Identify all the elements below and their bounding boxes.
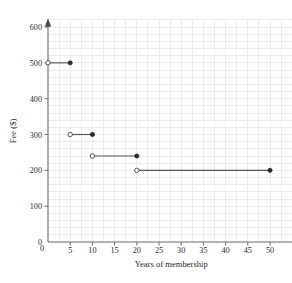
x-tick-label: 30 xyxy=(177,246,185,255)
axes xyxy=(45,18,292,245)
x-tick-label: 50 xyxy=(266,246,274,255)
closed-endpoint-marker xyxy=(68,61,72,65)
open-endpoint-marker xyxy=(90,154,94,158)
closed-endpoint-marker xyxy=(90,132,94,136)
x-tick-label: 20 xyxy=(133,246,141,255)
x-tick-label: 40 xyxy=(222,246,230,255)
open-endpoint-marker xyxy=(68,132,72,136)
x-axis-title: Years of membership xyxy=(135,259,208,269)
x-tick-label: 45 xyxy=(244,246,252,255)
y-tick-label: 500 xyxy=(30,59,42,68)
chart-container: 0100200300400500600 05101520253035404550… xyxy=(0,0,292,283)
x-tick-label: 15 xyxy=(111,246,119,255)
x-tick-label: 25 xyxy=(155,246,163,255)
x-tick-label: 10 xyxy=(88,246,96,255)
y-tick-label: 100 xyxy=(30,202,42,211)
x-axis-ticks: 05101520253035404550 xyxy=(40,242,274,255)
x-tick-label: 0 xyxy=(40,244,44,253)
step-function-chart: 0100200300400500600 05101520253035404550… xyxy=(0,0,292,283)
y-tick-label: 200 xyxy=(30,166,42,175)
grid-lines xyxy=(48,20,292,242)
closed-endpoint-marker xyxy=(135,154,139,158)
y-axis-ticks: 0100200300400500600 xyxy=(30,23,48,247)
y-tick-label: 400 xyxy=(30,95,42,104)
open-endpoint-marker xyxy=(135,168,139,172)
y-axis-title: Fee ($) xyxy=(8,119,18,144)
x-tick-label: 5 xyxy=(68,246,72,255)
open-endpoint-marker xyxy=(46,61,50,65)
closed-endpoint-marker xyxy=(268,168,272,172)
x-tick-label: 35 xyxy=(199,246,207,255)
y-tick-label: 300 xyxy=(30,131,42,140)
y-tick-label: 600 xyxy=(30,23,42,32)
